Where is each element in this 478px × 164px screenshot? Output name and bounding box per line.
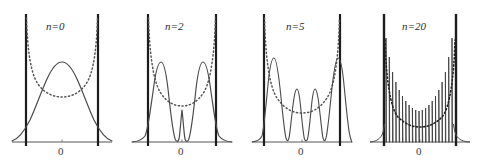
harmonic-oscillator-figure: n=0 0 n=2 0 n=5 0 — [0, 0, 478, 164]
origin-label-n20: 0 — [416, 145, 422, 157]
quantum-tail-left — [370, 124, 385, 142]
panel-label-n0: n=0 — [46, 20, 64, 32]
quantum-density-curve — [252, 58, 352, 142]
chart-panel-n5: n=5 0 — [240, 0, 360, 164]
chart-panel-n0: n=0 0 — [0, 0, 120, 164]
panel-label-n20: n=20 — [402, 20, 426, 32]
panel-label-n5: n=5 — [286, 20, 304, 32]
quantum-density-curve — [386, 38, 452, 142]
origin-label-n2: 0 — [178, 145, 184, 157]
chart-panel-n20: n=20 0 — [360, 0, 478, 164]
classical-density-curve — [265, 18, 340, 113]
origin-label-n5: 0 — [298, 145, 304, 157]
origin-label-n0: 0 — [58, 145, 64, 157]
panel-label-n2: n=2 — [165, 20, 183, 32]
chart-panel-n2: n=2 0 — [120, 0, 240, 164]
